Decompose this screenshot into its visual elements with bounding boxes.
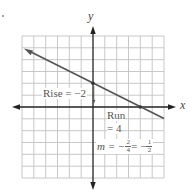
frac2-denominator: 2 xyxy=(148,147,152,154)
y-axis xyxy=(90,26,95,190)
x-axis-label: x xyxy=(180,99,185,111)
frac2-numerator: 1 xyxy=(148,139,152,146)
slope-prefix: m = − xyxy=(97,141,125,152)
slope-equals: = − xyxy=(131,141,146,152)
run-label-line2: = 4 xyxy=(107,123,121,134)
x-axis xyxy=(12,104,176,109)
line-left-arrow-icon xyxy=(24,49,33,56)
frac1-numerator: 2 xyxy=(127,139,131,146)
slope-formula: m = − 2 4 = − 1 2 xyxy=(96,139,153,154)
bullet-marker xyxy=(2,15,4,17)
y-axis-up-arrow-icon xyxy=(90,26,95,34)
frac1-denominator: 4 xyxy=(127,147,131,154)
y-intercept-point xyxy=(91,82,95,86)
rise-label: Rise = −2 xyxy=(42,88,87,99)
graph-canvas xyxy=(0,0,195,195)
run-label-line1: Run xyxy=(107,110,125,121)
y-axis-down-arrow-icon xyxy=(90,182,95,190)
slope-fraction-2: 1 2 xyxy=(146,139,152,154)
y-axis-label: y xyxy=(88,10,93,22)
x-intercept-point xyxy=(139,105,143,109)
x-axis-left-arrow-icon xyxy=(12,104,20,109)
x-axis-right-arrow-icon xyxy=(168,104,176,109)
